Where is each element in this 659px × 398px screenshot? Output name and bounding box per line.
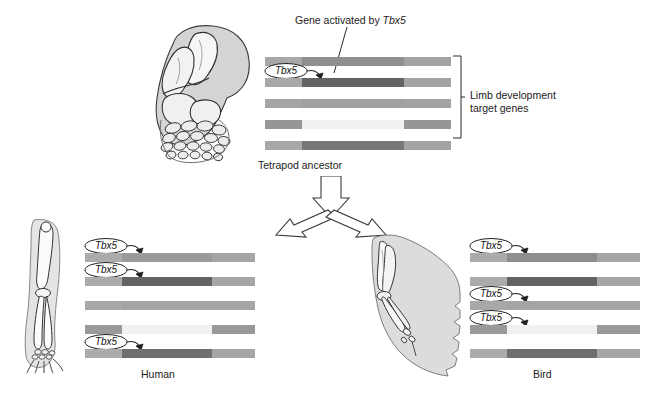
gene-bar (470, 325, 640, 334)
tbx5-tag-label: Tbx5 (268, 65, 304, 77)
gene-bar-segment (470, 277, 507, 286)
gene-bar-segment (470, 349, 507, 358)
gene-bar (470, 301, 640, 310)
gene-bar-segment (85, 253, 122, 262)
gene-bar-segment (404, 57, 451, 66)
gene-bar-segment (265, 99, 302, 108)
gene-bar-segment (470, 253, 507, 262)
gene-bar-segment (212, 325, 255, 334)
gene-bar-segment (212, 277, 255, 286)
gene-bar-segment (122, 349, 212, 358)
gene-bar-segment (122, 301, 212, 310)
gene-bar-segment (470, 301, 507, 310)
gene-bar-segment (122, 277, 212, 286)
gene-bar (470, 277, 640, 286)
gene-bar-segment (302, 120, 404, 129)
gene-bar-segment (85, 325, 122, 334)
gene-bar-segment (265, 120, 302, 129)
gene-bar-segment (507, 277, 597, 286)
human-arm-skeleton (12, 216, 78, 374)
gene-activated-annotation: Gene activated by Tbx5 (295, 14, 406, 27)
gene-bar-segment (302, 141, 404, 150)
tetrapod-ancestor-limb-skeleton (115, 16, 260, 164)
gene-bar (265, 141, 451, 150)
tbx5-tag-label: Tbx5 (88, 240, 124, 252)
gene-bar-segment (597, 325, 640, 334)
limb-target-genes-bracket (452, 55, 466, 140)
gene-bar-segment (302, 78, 404, 87)
gene-bar (265, 78, 451, 87)
gene-bar (85, 301, 255, 310)
gene-bar (265, 120, 451, 129)
tbx5-tag-label: Tbx5 (88, 264, 124, 276)
gene-bar-segment (404, 141, 451, 150)
gene-bar-segment (212, 349, 255, 358)
gene-bar-segment (85, 277, 122, 286)
tbx5-tag-label: Tbx5 (88, 336, 124, 348)
gene-bar-segment (212, 301, 255, 310)
gene-bar-segment (404, 120, 451, 129)
gene-bar-segment (404, 99, 451, 108)
gene-bar (85, 277, 255, 286)
gene-bar (265, 99, 451, 108)
divergence-arrows (258, 176, 408, 238)
bird-label: Bird (533, 368, 552, 381)
gene-bar-segment (597, 349, 640, 358)
gene-bar-segment (265, 78, 302, 87)
limb-target-genes-label: Limb development target genes (470, 89, 556, 115)
gene-activated-annotation-text: Gene activated by (295, 14, 383, 26)
bird-wing-skeleton (360, 232, 465, 378)
gene-bar-segment (302, 99, 404, 108)
gene-bar-segment (85, 301, 122, 310)
limb-target-genes-label-line2: target genes (470, 102, 556, 115)
human-label: Human (141, 368, 175, 381)
gene-bar-segment (597, 277, 640, 286)
limb-target-genes-label-line1: Limb development (470, 89, 556, 102)
tetrapod-ancestor-label: Tetrapod ancestor (258, 159, 342, 172)
gene-bar (470, 349, 640, 358)
gene-activated-annotation-gene: Tbx5 (383, 14, 406, 26)
gene-bar-segment (470, 325, 507, 334)
gene-bar-segment (404, 78, 451, 87)
gene-bar-segment (507, 325, 597, 334)
gene-bar-segment (122, 325, 212, 334)
tbx5-tag-label: Tbx5 (473, 240, 509, 252)
gene-bar-segment (122, 253, 212, 262)
gene-bar-segment (507, 349, 597, 358)
gene-bar-segment (265, 141, 302, 150)
gene-bar (85, 349, 255, 358)
gene-bar-segment (212, 253, 255, 262)
gene-bar (470, 253, 640, 262)
gene-bar-segment (85, 349, 122, 358)
tbx5-tag-label: Tbx5 (473, 312, 509, 324)
gene-bar-segment (597, 253, 640, 262)
gene-bar-segment (597, 301, 640, 310)
gene-bar (85, 325, 255, 334)
gene-bar-segment (507, 301, 597, 310)
tbx5-tag-label: Tbx5 (473, 288, 509, 300)
gene-bar-segment (507, 253, 597, 262)
gene-bar (85, 253, 255, 262)
